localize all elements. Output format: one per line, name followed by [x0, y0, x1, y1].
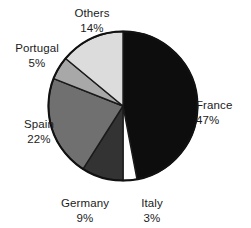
- pie-label-others-percent: 14%: [56, 21, 128, 36]
- pie-label-italy-name: Italy: [126, 196, 178, 211]
- pie-chart-figure: Others 14% Portugal 5% Spain 22% Germany…: [0, 0, 251, 228]
- pie-label-portugal-name: Portugal: [2, 41, 72, 56]
- pie-label-others-name: Others: [56, 6, 128, 21]
- pie-label-spain-percent: 22%: [8, 132, 70, 147]
- pie-label-portugal: Portugal 5%: [2, 41, 72, 71]
- pie-label-italy-percent: 3%: [126, 211, 178, 226]
- pie-label-france-name: France: [196, 98, 251, 113]
- pie-label-germany-name: Germany: [47, 196, 123, 211]
- pie-label-portugal-percent: 5%: [2, 56, 72, 71]
- pie-label-germany-percent: 9%: [47, 211, 123, 226]
- pie-label-germany: Germany 9%: [47, 196, 123, 226]
- pie-label-spain-name: Spain: [8, 117, 70, 132]
- pie-label-france: France 47%: [196, 98, 251, 128]
- pie-label-italy: Italy 3%: [126, 196, 178, 226]
- pie-slice-france: [123, 32, 197, 180]
- pie-label-spain: Spain 22%: [8, 117, 70, 147]
- pie-label-others: Others 14%: [56, 6, 128, 36]
- pie-label-france-percent: 47%: [196, 113, 251, 128]
